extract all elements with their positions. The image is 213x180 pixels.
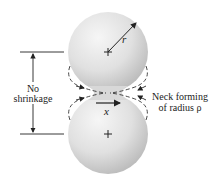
neck-label-line2: of radius ρ [159,102,202,113]
sintering-diagram: r x No shrinkage Neck forming of radius … [0,0,213,180]
neck-region [88,86,128,100]
radius-label: r [122,33,127,45]
neck-x-label: x [103,105,109,117]
neck-label-line1: Neck forming [152,91,208,102]
no-shrinkage-label-line2: shrinkage [14,93,53,104]
